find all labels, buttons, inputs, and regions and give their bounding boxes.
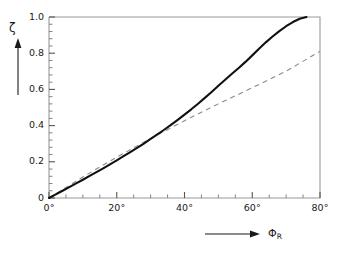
y-axis-title: ζ	[9, 21, 16, 35]
x-axis-title: ΦR	[268, 227, 282, 241]
y-axis-tick-label: 0.2	[8, 155, 44, 166]
chart-figure: 00.20.40.60.81.0 0°20°40°60°80° ζ ΦR	[0, 0, 337, 253]
y-axis-tick-label: 0.8	[8, 47, 44, 58]
x-axis-title-symbol: Φ	[268, 227, 277, 240]
x-axis-tick-label: 40°	[165, 202, 205, 213]
x-axis-tick-label: 0°	[29, 202, 69, 213]
x-axis-major-ticks	[49, 192, 320, 198]
y-axis-major-ticks	[49, 17, 55, 198]
x-axis-tick-label: 20°	[97, 202, 137, 213]
y-axis-tick-label: 0.6	[8, 83, 44, 94]
x-axis-arrow-icon	[205, 231, 260, 238]
y-axis-tick-label: 1.0	[8, 11, 44, 22]
x-axis-title-subscript: R	[277, 232, 282, 241]
plot-frame	[49, 17, 320, 198]
x-axis-tick-label: 60°	[232, 202, 272, 213]
solid-data-curve	[49, 17, 306, 198]
x-axis-tick-label: 80°	[300, 202, 337, 213]
chart-plot-area	[0, 0, 337, 253]
y-axis-tick-label: 0	[8, 192, 44, 203]
y-axis-tick-label: 0.4	[8, 119, 44, 130]
